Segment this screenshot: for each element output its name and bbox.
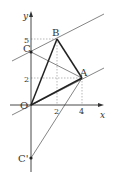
label-A: A [79, 67, 88, 78]
segment-OB [31, 39, 57, 105]
label-C: C [23, 43, 31, 54]
segment-AC-prime [31, 78, 82, 158]
y-axis-label: y [22, 11, 29, 21]
triangle-OAB [31, 39, 82, 105]
x-arrow-icon [98, 103, 104, 107]
x-tick-4: 4 [79, 107, 84, 116]
segment-BA [57, 39, 82, 78]
label-B: B [52, 27, 59, 38]
dashed-guides [31, 39, 82, 105]
origin-label: O [20, 100, 28, 111]
point-C-prime [29, 156, 32, 159]
x-axis-label: x [100, 110, 105, 120]
label-C-prime: C' [18, 153, 28, 164]
segment-AO [31, 78, 82, 105]
y-tick-2: 2 [24, 75, 29, 84]
coordinate-diagram: y x O 5 2 2 4 B C A C' [0, 0, 113, 187]
y-arrow-icon [29, 11, 33, 17]
x-tick-2: 2 [54, 107, 59, 116]
